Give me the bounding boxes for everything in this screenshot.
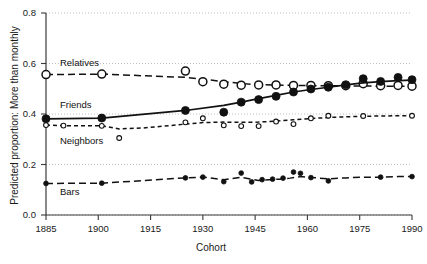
series-label-relatives: Relatives — [60, 57, 99, 68]
marker-neighbors-13 — [361, 114, 366, 119]
marker-friends-12 — [377, 77, 385, 85]
x-tick-label-1975: 1975 — [340, 223, 380, 234]
marker-friends-5 — [255, 96, 263, 104]
marker-friends-3 — [220, 108, 228, 116]
marker-friends-0 — [42, 115, 50, 123]
marker-bars-3 — [200, 175, 205, 180]
marker-bars-7 — [260, 177, 265, 182]
marker-neighbors-7 — [239, 124, 244, 129]
x-tick-label-1945: 1945 — [235, 223, 275, 234]
marker-bars-11 — [298, 171, 303, 176]
marker-bars-10 — [291, 170, 296, 175]
marker-bars-6 — [249, 180, 254, 185]
marker-neighbors-9 — [274, 119, 279, 124]
marker-relatives-3 — [199, 78, 207, 86]
marker-neighbors-3 — [117, 136, 122, 141]
y-tick-label-0.0: 0.0 — [10, 209, 36, 220]
marker-bars-4 — [221, 179, 226, 184]
marker-neighbors-6 — [221, 123, 226, 128]
marker-bars-1 — [99, 181, 104, 186]
marker-bars-15 — [410, 174, 415, 179]
marker-bars-8 — [270, 177, 275, 182]
x-tick-label-1885: 1885 — [26, 223, 66, 234]
marker-bars-13 — [326, 179, 331, 184]
marker-friends-14 — [408, 76, 416, 84]
marker-neighbors-4 — [183, 120, 188, 125]
series-label-neighbors: Neighbors — [60, 135, 103, 146]
marker-neighbors-2 — [99, 123, 104, 128]
marker-friends-2 — [181, 106, 189, 114]
marker-neighbors-0 — [44, 123, 49, 128]
marker-bars-14 — [378, 175, 383, 180]
marker-bars-2 — [183, 175, 188, 180]
marker-friends-7 — [289, 88, 297, 96]
y-tick-label-0.8: 0.8 — [10, 7, 36, 18]
marker-friends-13 — [394, 73, 402, 81]
marker-bars-0 — [44, 181, 49, 186]
marker-neighbors-11 — [309, 116, 314, 121]
marker-friends-10 — [342, 81, 350, 89]
x-tick-label-1915: 1915 — [131, 223, 171, 234]
marker-neighbors-10 — [291, 122, 296, 127]
marker-bars-12 — [309, 175, 314, 180]
series-label-bars: Bars — [60, 186, 80, 197]
y-tick-label-0.4: 0.4 — [10, 108, 36, 119]
marker-friends-9 — [324, 83, 332, 91]
marker-relatives-6 — [255, 81, 263, 89]
marker-relatives-0 — [42, 71, 50, 79]
marker-neighbors-1 — [61, 123, 66, 128]
series-label-friends: Friends — [60, 99, 92, 110]
marker-relatives-14 — [394, 81, 402, 89]
marker-relatives-2 — [181, 67, 189, 75]
marker-relatives-5 — [237, 81, 245, 89]
marker-friends-4 — [237, 98, 245, 106]
x-tick-label-1960: 1960 — [287, 223, 327, 234]
x-tick-label-1930: 1930 — [183, 223, 223, 234]
marker-relatives-1 — [98, 70, 106, 78]
marker-friends-8 — [307, 85, 315, 93]
marker-relatives-7 — [272, 81, 280, 89]
marker-relatives-4 — [220, 80, 228, 88]
y-tick-label-0.6: 0.6 — [10, 58, 36, 69]
marker-friends-6 — [272, 92, 280, 100]
marker-bars-5 — [239, 171, 244, 176]
marker-neighbors-5 — [200, 116, 205, 121]
x-tick-label-1900: 1900 — [78, 223, 118, 234]
marker-neighbors-8 — [256, 124, 261, 129]
marker-neighbors-14 — [410, 113, 415, 118]
y-tick-label-0.2: 0.2 — [10, 159, 36, 170]
marker-friends-11 — [359, 75, 367, 83]
marker-neighbors-12 — [326, 113, 331, 118]
marker-friends-1 — [98, 114, 106, 122]
marker-bars-9 — [281, 176, 286, 181]
x-tick-label-1990: 1990 — [392, 223, 427, 234]
